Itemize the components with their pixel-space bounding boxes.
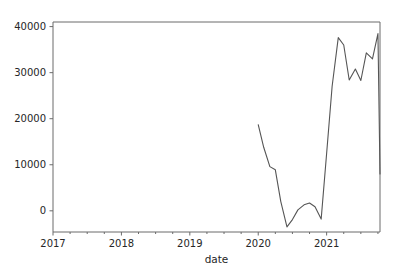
- y-axis-tick-labels: 010000200003000040000: [14, 21, 46, 216]
- x-axis-tick-labels: 20172018201920202021: [40, 238, 339, 249]
- y-tick-label: 0: [40, 205, 46, 216]
- x-tick-label: 2017: [40, 238, 65, 249]
- x-tick-label: 2021: [314, 238, 339, 249]
- y-axis-tickmarks: [50, 27, 54, 211]
- chart-svg: 010000200003000040000 201720182019202020…: [0, 0, 398, 275]
- matplotlib-figure: 010000200003000040000 201720182019202020…: [0, 0, 398, 275]
- y-tick-label: 20000: [14, 113, 46, 124]
- y-tick-label: 30000: [14, 67, 46, 78]
- y-tick-label: 40000: [14, 21, 46, 32]
- y-tick-label: 10000: [14, 159, 46, 170]
- x-tick-label: 2020: [246, 238, 271, 249]
- x-tick-label: 2018: [109, 238, 134, 249]
- x-axis-tickmarks: [53, 232, 327, 236]
- plot-background: [53, 22, 380, 232]
- x-axis-label: date: [205, 253, 229, 265]
- x-tick-label: 2019: [177, 238, 202, 249]
